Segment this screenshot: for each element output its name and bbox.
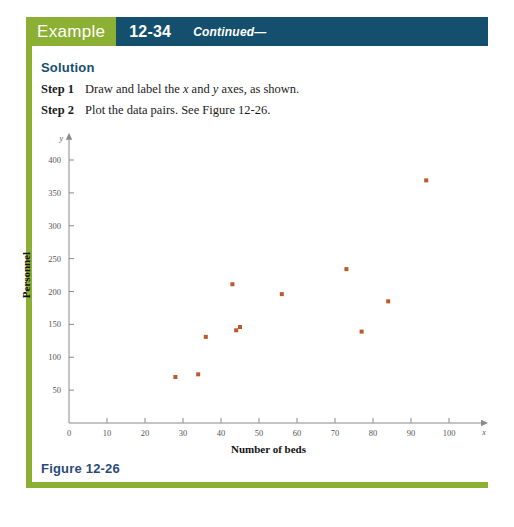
- solution-heading: Solution: [41, 60, 95, 75]
- x-axis-tick-label: 30: [179, 428, 188, 438]
- data-point: [238, 325, 242, 329]
- step-1-text-c: axes, as shown.: [218, 82, 299, 96]
- x-axis-title: Number of beds: [231, 443, 307, 455]
- step-1-text: Draw and label the x and y axes, as show…: [85, 82, 299, 97]
- data-point: [424, 178, 428, 182]
- step-1-text-a: Draw and label the: [85, 82, 183, 96]
- data-point: [234, 328, 238, 332]
- example-header: Example 12-34 Continued—: [26, 17, 488, 46]
- y-axis-tick-label: 350: [48, 188, 61, 198]
- x-axis-tick-label: 50: [255, 428, 264, 438]
- step-1-row: Step 1Draw and label the x and y axes, a…: [41, 82, 299, 97]
- x-axis-tick-label: 40: [217, 428, 226, 438]
- figure-caption: Figure 12-26: [41, 461, 120, 476]
- step-2-row: Step 2Plot the data pairs. See Figure 12…: [41, 103, 270, 118]
- step-1-text-b: and: [188, 82, 212, 96]
- scatter-plot-svg: 5010015020025030035040001020304050607080…: [0, 125, 500, 455]
- data-point: [280, 292, 284, 296]
- x-axis-tick-label: 90: [407, 428, 416, 438]
- y-axis-arrow: [66, 133, 72, 140]
- step-2-text: Plot the data pairs. See Figure 12-26.: [85, 103, 270, 118]
- data-point: [230, 282, 234, 286]
- data-point: [204, 335, 208, 339]
- y-axis-tick-label: 100: [48, 352, 61, 362]
- y-axis-title: Personnel: [20, 252, 32, 298]
- data-point: [173, 375, 177, 379]
- header-right-band: 12-34 Continued—: [116, 17, 488, 46]
- x-axis-tick-label: 70: [331, 428, 340, 438]
- x-axis-arrow: [481, 420, 488, 426]
- data-point: [386, 299, 390, 303]
- header-continued-label: Continued—: [193, 25, 266, 39]
- bottom-green-rule: [26, 482, 488, 488]
- header-example-number: 12-34: [129, 23, 171, 41]
- x-axis-tick-label: 0: [67, 428, 71, 438]
- x-axis-tick-label: 20: [141, 428, 150, 438]
- y-axis-tick-label: 50: [53, 385, 62, 395]
- y-axis-tick-label: 400: [48, 155, 61, 165]
- x-axis-tick-label: 100: [443, 428, 456, 438]
- y-axis-tick-label: 300: [48, 221, 61, 231]
- step-2-label: Step 2: [41, 103, 85, 118]
- data-point: [360, 330, 364, 334]
- x-axis-tick-label: 60: [293, 428, 302, 438]
- y-axis-tick-label: 250: [48, 254, 61, 264]
- y-axis-tick-label: 150: [48, 319, 61, 329]
- scatter-plot-figure: 5010015020025030035040001020304050607080…: [0, 125, 500, 455]
- data-point: [344, 267, 348, 271]
- page-root: Example 12-34 Continued— Solution Step 1…: [0, 0, 514, 527]
- step-1-label: Step 1: [41, 82, 85, 97]
- y-axis-variable-label: y: [58, 134, 63, 143]
- x-axis-variable-label: x: [481, 428, 486, 437]
- data-point-group: [173, 178, 428, 379]
- header-example-label: Example: [26, 17, 116, 46]
- x-axis-tick-label: 10: [103, 428, 112, 438]
- y-axis-tick-label: 200: [48, 287, 61, 297]
- data-point: [196, 372, 200, 376]
- x-axis-tick-label: 80: [369, 428, 378, 438]
